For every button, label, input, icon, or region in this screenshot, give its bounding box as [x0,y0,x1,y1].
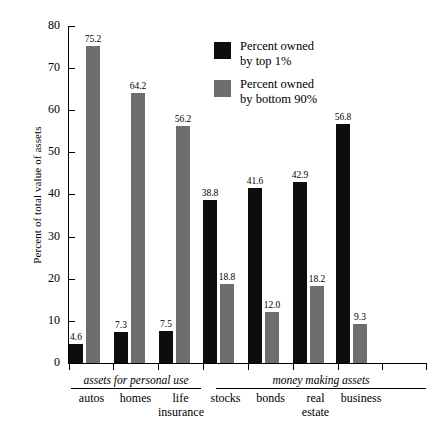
legend-swatch-gray [214,80,231,97]
legend-swatch-black [214,42,231,59]
y-tick-label-10: 10 [30,314,60,327]
category-label-life-line1: life [173,391,189,405]
y-tick-label-30: 30 [30,230,60,243]
group-title-money: money making assets [216,373,426,387]
category-label-business: business [336,392,386,406]
bar-value-label: 56.8 [330,112,356,122]
y-tick-label-0: 0 [30,356,60,369]
bar-value-label: 9.3 [347,312,373,322]
bar-value-label: 41.6 [242,176,268,186]
bar-value-label: 18.2 [304,274,330,284]
legend-label-line1: Percent owned [240,77,314,91]
x-tick [203,364,204,370]
category-label-real-line2: estate [302,405,329,419]
y-tick-label-60: 60 [30,103,60,116]
x-tick [158,364,159,370]
group-title-personal: assets for personal use [71,373,201,387]
x-tick [293,364,294,370]
bar-autos-top1 [69,344,83,363]
legend-label-line2: by top 1% [240,54,291,68]
y-tick-label-50: 50 [30,145,60,158]
bar-life-insurance-top1 [159,331,173,363]
x-tick [69,364,70,370]
x-tick [248,364,249,370]
category-label-autos: autos [69,392,114,406]
bar-autos-bottom90 [86,46,100,363]
bar-value-label: 75.2 [80,34,106,44]
group-header-personal: assets for personal use [71,373,201,389]
bar-real-estate-top1 [293,182,307,363]
group-rule [216,388,426,389]
x-tick [382,364,383,370]
y-tick-label-80: 80 [30,19,60,32]
group-header-money: money making assets [216,373,426,389]
bar-bonds-top1 [248,188,262,363]
bar-business-bottom90 [353,324,367,363]
y-tick-label-70: 70 [30,61,60,74]
category-label-life-line2: insurance [158,405,204,419]
bar-value-label: 12.0 [259,300,285,310]
legend-label-line1: Percent owned [240,39,314,53]
x-tick [426,364,427,370]
category-label-stocks: stocks [203,392,248,406]
x-tick [113,364,114,370]
legend-label-line2: by bottom 90% [240,92,317,106]
bar-business-top1 [336,124,350,363]
legend-label-top-1pct: Percent owned by top 1% [240,39,314,68]
bar-value-label: 56.2 [170,114,196,124]
category-label-bonds: bonds [248,392,293,406]
x-tick [338,364,339,370]
bar-chart: Percent of total value of assets 80 70 6… [0,0,428,425]
bar-homes-bottom90 [131,93,145,363]
group-rule [71,388,201,389]
bar-value-label: 18.8 [214,272,240,282]
bar-bonds-bottom90 [265,312,279,363]
bar-real-estate-bottom90 [310,286,324,363]
bar-homes-top1 [114,332,128,363]
category-label-homes: homes [113,392,158,406]
bar-value-label: 38.8 [197,188,223,198]
bar-value-label: 64.2 [125,81,151,91]
y-tick-label-20: 20 [30,272,60,285]
category-label-real-line1: real [307,391,325,405]
bar-life-insurance-bottom90 [176,126,190,363]
y-tick-label-40: 40 [30,187,60,200]
bar-value-label: 42.9 [287,170,313,180]
category-label-life-insurance: life insurance [158,392,203,419]
legend-label-bottom-90pct: Percent owned by bottom 90% [240,77,317,106]
category-label-real-estate: real estate [293,392,338,419]
bar-stocks-bottom90 [220,284,234,363]
